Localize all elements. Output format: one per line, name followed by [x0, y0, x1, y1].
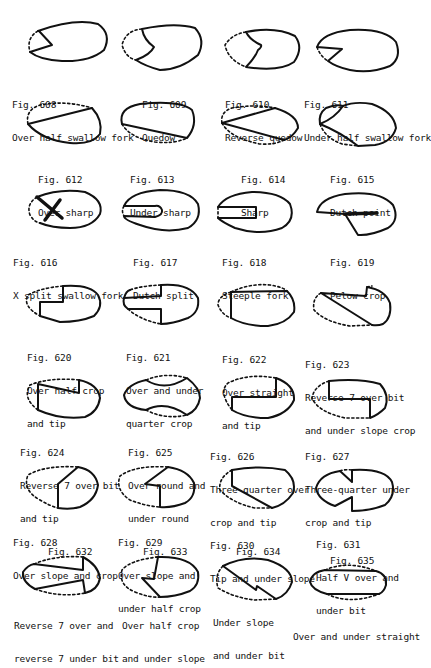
figure-number: Fig. 635	[330, 555, 374, 566]
figure-caption: and under slope	[122, 653, 205, 664]
figure-caption: and under bit	[213, 650, 285, 661]
figure-caption: reverse 7 under bit	[14, 653, 119, 664]
figure-caption: Over and under straight	[293, 631, 420, 642]
